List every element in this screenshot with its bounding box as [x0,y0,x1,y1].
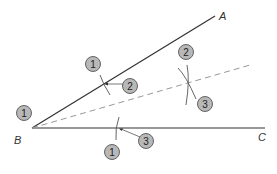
bisector-line [32,65,250,128]
svg-text:3: 3 [143,136,149,147]
step-marker: 1 [86,57,101,72]
leader-step-3-bc [121,129,140,137]
step-marker: 2 [179,45,194,60]
step-marker: 3 [139,134,154,149]
step-marker: 2 [123,79,138,94]
step-marker: 3 [198,97,213,112]
svg-text:3: 3 [202,99,208,110]
svg-text:2: 2 [183,47,189,58]
svg-text:1: 1 [109,147,115,158]
svg-text:1: 1 [90,59,96,70]
svg-text:1: 1 [21,108,27,119]
vertex-label-a: A [218,10,226,22]
step-marker: 1 [105,145,120,160]
angle-bisector-diagram: A B C 1 1 2 2 3 1 3 [0,0,277,174]
svg-text:2: 2 [127,81,133,92]
vertex-label-b: B [14,134,21,146]
step-marker: 1 [17,106,32,121]
arc-step-2 [186,65,188,105]
vertex-label-c: C [258,131,266,143]
